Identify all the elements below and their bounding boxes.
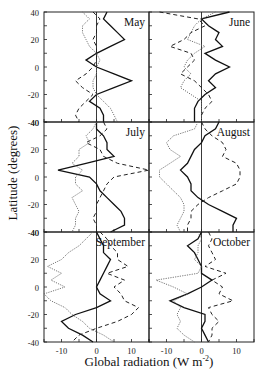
x-axis-label: Global radiation (W m-2)	[44, 354, 254, 370]
series-dashed	[72, 232, 139, 342]
series-dotted	[160, 122, 199, 232]
panel-may: May40200-20-40	[28, 8, 149, 128]
y-tick-label: 40	[31, 228, 40, 238]
series-solid	[58, 122, 125, 232]
y-tick-label: 20	[31, 255, 40, 265]
series-dotted	[72, 122, 97, 232]
panel-month-label: May	[124, 16, 145, 29]
series-dashed	[86, 122, 149, 232]
series-solid	[195, 12, 230, 122]
series-solid	[62, 232, 111, 342]
y-tick-label: 0	[35, 173, 39, 183]
series-solid	[86, 12, 132, 122]
x-axis-label-main: Global radiation (W m	[85, 354, 203, 369]
panel-august: August	[149, 122, 254, 232]
y-tick-label: 0	[35, 283, 39, 293]
series-solid	[181, 122, 237, 232]
y-tick-label: -20	[28, 310, 39, 320]
y-tick-label: -40	[28, 338, 39, 348]
y-tick-label: 20	[31, 145, 40, 155]
panel-june: June	[149, 12, 254, 122]
y-tick-label: -20	[28, 90, 39, 100]
y-axis-label: Latitude (degrees)	[5, 108, 21, 238]
panel-month-label: October	[213, 236, 250, 248]
series-dotted	[181, 12, 216, 122]
series-dashed	[205, 232, 233, 342]
panel-october: October-10010	[149, 232, 254, 356]
y-tick-label: 40	[31, 118, 40, 128]
panel-september: September40200-20-40-10010	[28, 228, 149, 357]
panel-month-label: August	[217, 126, 251, 139]
y-tick-label: 20	[31, 35, 40, 45]
panel-month-label: July	[126, 126, 145, 139]
y-tick-label: -20	[28, 200, 39, 210]
series-dotted	[156, 232, 202, 342]
series-solid	[170, 232, 212, 342]
panel-month-label: September	[96, 236, 145, 249]
x-axis-label-tail: )	[209, 354, 213, 369]
chart-figure: May40200-20-40JuneJuly40200-20-40AugustS…	[0, 0, 264, 379]
panel-grid: May40200-20-40JuneJuly40200-20-40AugustS…	[28, 8, 254, 357]
y-tick-label: 0	[35, 63, 39, 73]
y-tick-label: 40	[31, 8, 40, 18]
panel-july: July40200-20-40	[28, 118, 149, 238]
series-dashed	[160, 12, 213, 122]
series-dotted	[83, 12, 118, 122]
panel-month-label: June	[229, 16, 250, 28]
